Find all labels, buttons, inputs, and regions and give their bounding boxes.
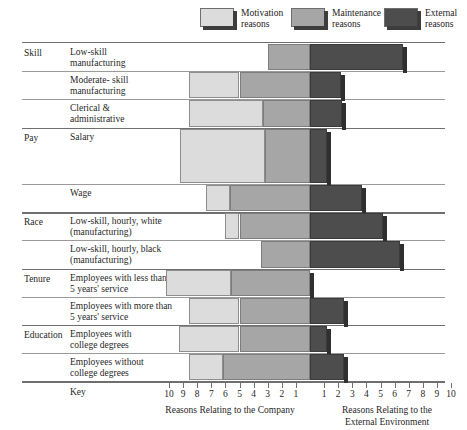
bar-segment-external — [310, 354, 344, 380]
bar-segment-maintenance — [240, 72, 311, 98]
axis-tick-left-1 — [296, 383, 297, 388]
category-label: Salary — [70, 132, 94, 143]
category-label-line1: Wage — [70, 188, 91, 199]
legend-swatch-maintenance — [291, 8, 325, 27]
category-label: Low-skillmanufacturing — [70, 47, 125, 69]
axis-tick-label-right-10: 10 — [444, 389, 458, 399]
category-label-line1: Clerical & — [70, 103, 124, 114]
category-label-line1: Salary — [70, 132, 94, 143]
axis-tick-label-left-1: 1 — [289, 389, 303, 399]
category-label: Employees withcollege degrees — [70, 329, 131, 351]
group-label-race: Race — [24, 217, 43, 228]
group-label-education: Education — [24, 330, 63, 341]
axis-tick-right-2 — [338, 383, 339, 388]
axis-caption-right-line2: External Environment — [312, 416, 462, 428]
axis-tick-label-left-6: 6 — [218, 389, 232, 399]
bar-segment-external — [310, 44, 403, 70]
category-label-line2: college degrees — [70, 340, 131, 351]
axis-tick-label-right-8: 8 — [416, 389, 430, 399]
bar-segment-maintenance — [263, 100, 310, 126]
axis-tick-right-9 — [437, 383, 438, 388]
legend-swatch-motivation — [200, 8, 234, 27]
category-label-line2: (manufacturing) — [70, 255, 161, 266]
bar-segment-external — [310, 298, 344, 324]
legend-label-line2: reasons — [425, 19, 457, 30]
bar-segment-external — [310, 326, 327, 352]
legend-label-line2: reasons — [241, 19, 283, 30]
category-label: Employees with less than5 years' service — [70, 273, 167, 295]
category-label-line1: Moderate- skill — [70, 75, 128, 86]
axis-tick-left-5 — [240, 383, 241, 388]
bar-shadow-right — [327, 132, 331, 186]
bar-segment-motivation — [180, 129, 265, 183]
category-label: Wage — [70, 188, 91, 199]
axis-tick-label-right-3: 3 — [345, 389, 359, 399]
chart-root: MotivationreasonsMaintenancereasonsExter… — [0, 0, 467, 430]
bar-shadow-right — [344, 301, 348, 327]
bar-segment-motivation — [225, 213, 239, 239]
axis-tick-right-8 — [423, 383, 424, 388]
bar-segment-motivation — [179, 326, 240, 352]
bar-segment-maintenance — [223, 354, 310, 380]
bar-shadow-right — [342, 103, 346, 129]
category-label-line2: 5 years' service — [70, 284, 167, 295]
bar-shadow-right — [327, 329, 331, 355]
bar-segment-motivation — [189, 100, 264, 126]
axis-tick-right-10 — [451, 383, 452, 388]
category-label-line2: (manufacturing) — [70, 227, 162, 238]
axis-tick-label-right-4: 4 — [359, 389, 373, 399]
axis-tick-label-right-7: 7 — [402, 389, 416, 399]
group-label-skill: Skill — [24, 48, 42, 59]
bar-segment-maintenance — [240, 326, 311, 352]
group-label-tenure: Tenure — [24, 274, 50, 285]
group-label-pay: Pay — [24, 133, 38, 144]
legend-label-motivation: Motivationreasons — [241, 8, 283, 29]
axis-tick-left-10 — [169, 383, 170, 388]
category-label-line1: Employees with more than — [70, 301, 172, 312]
axis-caption-right: Reasons Relating to theExternal Environm… — [312, 404, 462, 428]
category-label-line2: administrative — [70, 114, 124, 125]
bar-shadow-right — [310, 273, 314, 299]
key-row-label: Key — [70, 387, 86, 398]
axis-tick-left-6 — [225, 383, 226, 388]
bar-segment-external — [310, 129, 327, 183]
axis-tick-left-2 — [282, 383, 283, 388]
legend-label-line1: Motivation — [241, 8, 283, 19]
bar-shadow-right — [383, 216, 387, 242]
axis-tick-right-6 — [395, 383, 396, 388]
axis-tick-right-7 — [409, 383, 410, 388]
category-label-line1: Employees without — [70, 357, 144, 368]
axis-tick-right-1 — [324, 383, 325, 388]
axis-tick-right-4 — [366, 383, 367, 388]
legend-label-external: Externalreasons — [425, 8, 457, 29]
bar-shadow-right — [403, 47, 407, 73]
category-label: Employees withoutcollege degrees — [70, 357, 144, 379]
category-label-line1: Low-skill, hourly, black — [70, 244, 161, 255]
bar-segment-motivation — [189, 298, 240, 324]
bar-shadow-right — [400, 244, 404, 270]
bar-segment-external — [310, 185, 362, 211]
bar-segment-motivation — [166, 270, 231, 296]
axis-tick-label-left-5: 5 — [233, 389, 247, 399]
axis-tick-label-left-3: 3 — [261, 389, 275, 399]
category-label-line1: Low-skill — [70, 47, 125, 58]
axis-tick-left-3 — [268, 383, 269, 388]
legend-item-motivation: Motivationreasons — [200, 8, 283, 29]
category-label-line2: manufacturing — [70, 86, 128, 97]
axis-tick-label-left-7: 7 — [204, 389, 218, 399]
bar-segment-motivation — [189, 72, 240, 98]
axis-tick-left-9 — [183, 383, 184, 388]
axis-tick-left-8 — [197, 383, 198, 388]
category-label: Employees with more than5 years' service — [70, 301, 172, 323]
legend-label-line1: Maintenance — [332, 8, 381, 19]
axis-tick-left-4 — [254, 383, 255, 388]
bar-segment-external — [310, 213, 383, 239]
legend-item-external: Externalreasons — [384, 8, 457, 29]
axis-tick-label-right-9: 9 — [430, 389, 444, 399]
legend-item-maintenance: Maintenancereasons — [291, 8, 381, 29]
bar-segment-motivation — [206, 185, 230, 211]
category-label-line1: Low-skill, hourly, white — [70, 216, 162, 227]
bar-segment-maintenance — [268, 44, 310, 70]
category-label-line2: manufacturing — [70, 58, 125, 69]
bar-segment-maintenance — [240, 213, 311, 239]
